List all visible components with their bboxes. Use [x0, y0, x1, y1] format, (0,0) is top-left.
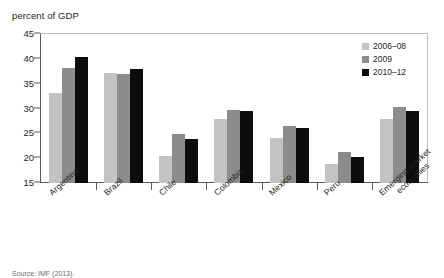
legend: 2006–0820092010–12: [362, 41, 406, 78]
bar: [338, 152, 351, 183]
legend-swatch-icon: [362, 56, 369, 63]
bar: [117, 74, 130, 183]
bar: [214, 119, 227, 183]
legend-item[interactable]: 2010–12: [362, 67, 406, 78]
bar: [351, 157, 364, 183]
bar-chart: percent of GDP 45403530252015 ArgentinaB…: [0, 0, 444, 278]
bar-group: [151, 34, 206, 183]
y-axis: 45403530252015: [0, 33, 40, 183]
y-axis-tick-label: 20: [23, 152, 34, 163]
y-axis-tick-label: 25: [23, 127, 34, 138]
bar: [172, 134, 185, 183]
bar: [296, 128, 309, 183]
y-axis-tick-label: 30: [23, 102, 34, 113]
bar: [130, 69, 143, 183]
legend-item-label: 2010–12: [373, 67, 406, 78]
legend-swatch-icon: [362, 69, 369, 76]
bar-group: [206, 34, 261, 183]
y-axis-tick-label: 35: [23, 77, 34, 88]
x-axis-ticks: [41, 183, 427, 190]
x-axis-tick-mark: [372, 183, 373, 190]
x-axis-tick-mark: [262, 183, 263, 190]
legend-item[interactable]: 2006–08: [362, 41, 406, 52]
y-axis-title: percent of GDP: [12, 10, 79, 21]
bar-group: [262, 34, 317, 183]
x-axis-tick-mark: [317, 183, 318, 190]
legend-item[interactable]: 2009: [362, 54, 406, 65]
y-axis-tick-label: 40: [23, 52, 34, 63]
bar: [185, 139, 198, 183]
source-note: Source: IMF (2013).: [12, 270, 74, 277]
x-axis-tick-mark: [151, 183, 152, 190]
x-axis-tick-mark: [96, 183, 97, 190]
bar: [49, 93, 62, 183]
bar: [75, 57, 88, 183]
legend-swatch-icon: [362, 43, 369, 50]
bar: [380, 119, 393, 183]
bar: [104, 73, 117, 183]
legend-item-label: 2009: [373, 54, 392, 65]
x-axis-labels: ArgentinaBrazilChileColombiaMexicoPeruEm…: [41, 190, 427, 270]
bar-group: [96, 34, 151, 183]
legend-item-label: 2006–08: [373, 41, 406, 52]
y-axis-tick-label: 45: [23, 28, 34, 39]
bar-group: [41, 34, 96, 183]
y-axis-tick-label: 15: [23, 177, 34, 188]
x-axis-tick-mark: [206, 183, 207, 190]
